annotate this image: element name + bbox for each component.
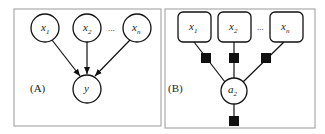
factor-1 (201, 53, 211, 63)
ellipsis: ... (108, 23, 115, 33)
node-y-label: y (83, 82, 89, 94)
edge-x1-y (52, 40, 80, 76)
panel-a: x1 x2 ... xn y (A) (14, 9, 161, 126)
panel-b-label: (B) (168, 82, 183, 95)
panel-b: x1 x2 ... xn a2 (B) (165, 9, 315, 128)
edge-xn-y (95, 40, 130, 76)
factor-bottom (229, 116, 239, 126)
factor-n (261, 53, 271, 63)
diagram: x1 x2 ... xn y (A) x1 x2 ... xn a2 (B) (0, 0, 325, 134)
factor-2 (229, 53, 239, 63)
ellipsis-b: ... (257, 22, 264, 32)
panel-a-label: (A) (30, 82, 46, 95)
